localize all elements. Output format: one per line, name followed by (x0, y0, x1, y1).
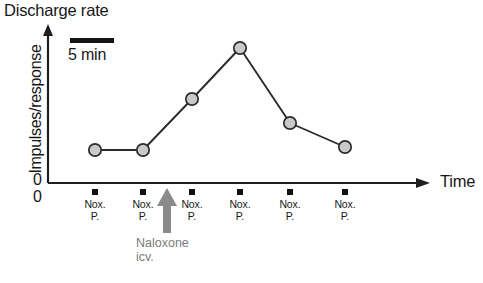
x-axis-tick-group: Nox.P. (213, 189, 267, 222)
x-axis-tick-group: Nox.P. (116, 189, 170, 222)
data-point (137, 144, 149, 156)
discharge-rate-figure: Discharge rate Impulses/response Time 0 … (0, 0, 483, 283)
tick-label-line2: P. (263, 210, 317, 222)
plot-area (0, 0, 483, 283)
tick-square-marker (189, 189, 195, 195)
x-axis-tick-group: Nox.P. (68, 189, 122, 222)
tick-label-line1: Nox. (116, 198, 170, 210)
x-axis-tick-group: Nox.P. (263, 189, 317, 222)
x-axis-tick-group: Nox.P. (318, 189, 372, 222)
tick-label-line2: P. (318, 210, 372, 222)
data-point (339, 141, 351, 153)
tick-label-line1: Nox. (318, 198, 372, 210)
tick-label-line2: P. (165, 210, 219, 222)
data-point (234, 42, 246, 54)
series-line (95, 48, 345, 150)
y-axis (43, 24, 53, 183)
tick-label-line1: Nox. (165, 198, 219, 210)
tick-square-marker (237, 189, 243, 195)
tick-label-line1: Nox. (213, 198, 267, 210)
naloxone-annotation-line1: Naloxone (136, 236, 189, 250)
tick-square-marker (92, 189, 98, 195)
tick-label-line2: P. (68, 210, 122, 222)
x-axis-tick-group: Nox.P. (165, 189, 219, 222)
tick-label-line1: Nox. (68, 198, 122, 210)
tick-square-marker (342, 189, 348, 195)
tick-label-line2: P. (213, 210, 267, 222)
x-axis (48, 178, 430, 188)
tick-square-marker (287, 189, 293, 195)
naloxone-annotation-line2: icv. (136, 250, 189, 264)
data-point (284, 117, 296, 129)
series-markers (89, 42, 351, 156)
tick-label-line1: Nox. (263, 198, 317, 210)
naloxone-annotation: Naloxone icv. (136, 236, 189, 264)
data-point (89, 144, 101, 156)
tick-square-marker (140, 189, 146, 195)
tick-label-line2: P. (116, 210, 170, 222)
data-point (186, 93, 198, 105)
